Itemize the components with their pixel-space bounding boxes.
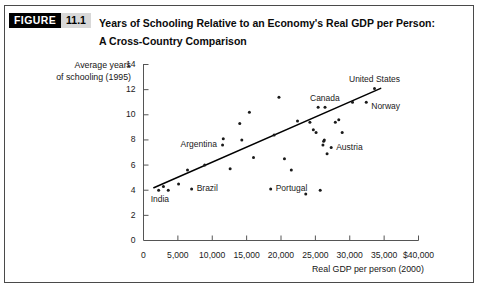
y-tick-label: 2	[118, 210, 136, 220]
point-label: Norway	[371, 101, 400, 111]
y-tick-label: 14	[118, 59, 136, 69]
point-label: Austria	[336, 142, 362, 152]
point-label: Canada	[310, 93, 340, 103]
figure-container: FIGURE11.1 Years of Schooling Relative t…	[0, 0, 479, 293]
y-tick-label: 12	[118, 84, 136, 94]
point-label: United States	[349, 74, 400, 84]
point-label: Portugal	[276, 183, 308, 193]
figure-number-label: 11.1	[61, 13, 91, 28]
y-tick-label: 10	[118, 109, 136, 119]
point-label: India	[151, 194, 169, 204]
y-tick-label: 8	[118, 134, 136, 144]
y-tick-label: 6	[118, 160, 136, 170]
x-axis-label: Real GDP per person (2000)	[312, 264, 424, 274]
figure-title: Years of Schooling Relative to an Econom…	[99, 13, 435, 49]
figure-tag-label: FIGURE	[9, 13, 61, 28]
figure-title-line-1: Years of Schooling Relative to an Econom…	[99, 17, 435, 29]
point-label: Argentina	[181, 139, 217, 149]
y-tick-label: 0	[118, 235, 136, 245]
y-tick-label: 4	[118, 185, 136, 195]
point-label: Brazil	[197, 183, 218, 193]
y-axis-label-line-2: of schooling (1995)	[35, 72, 131, 84]
x-tick-label: $40,000	[397, 250, 441, 260]
figure-header: FIGURE11.1 Years of Schooling Relative t…	[9, 13, 435, 49]
figure-title-line-2: A Cross-Country Comparison	[99, 35, 247, 47]
